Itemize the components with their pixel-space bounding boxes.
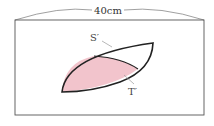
- diagram-canvas: 40cm S′ T′: [0, 0, 214, 126]
- shaded-region: [62, 56, 138, 92]
- width-label: 40cm: [94, 5, 122, 16]
- label-t: T′: [128, 86, 138, 97]
- s-leader: [102, 41, 112, 47]
- label-s: S′: [90, 32, 100, 43]
